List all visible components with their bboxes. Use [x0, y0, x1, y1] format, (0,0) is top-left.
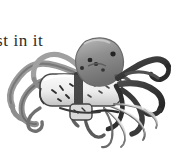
eye-right	[110, 52, 115, 57]
caption-text-fragment: st in it	[0, 31, 43, 50]
illustration-page: st in it	[0, 0, 176, 155]
octopus-illustration	[0, 0, 176, 155]
eye-left	[88, 58, 93, 63]
